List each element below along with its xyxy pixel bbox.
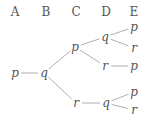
tree-node: p bbox=[130, 21, 138, 33]
tree-edge bbox=[49, 51, 71, 69]
tree-diagram: A B C D E p q p r q r q p r p p r bbox=[0, 0, 149, 115]
column-header-c: C bbox=[71, 6, 80, 18]
tree-node: p bbox=[130, 60, 138, 72]
tree-node: p bbox=[11, 67, 19, 79]
tree-edge bbox=[111, 29, 129, 35]
tree-node: r bbox=[102, 60, 108, 72]
tree-edge bbox=[81, 39, 100, 45]
column-header-e: E bbox=[130, 6, 139, 18]
tree-node: p bbox=[71, 41, 79, 53]
column-header-d: D bbox=[101, 6, 111, 18]
tree-node: q bbox=[102, 97, 110, 109]
tree-node: q bbox=[40, 67, 48, 79]
tree-edge bbox=[80, 50, 100, 63]
column-header-b: B bbox=[42, 6, 51, 18]
tree-edge bbox=[111, 39, 129, 46]
column-header-a: A bbox=[11, 6, 20, 18]
tree-edge bbox=[112, 105, 128, 109]
tree-node: r bbox=[73, 97, 79, 109]
tree-edge bbox=[48, 77, 71, 99]
tree-node: r bbox=[131, 42, 137, 54]
tree-node: p bbox=[130, 86, 138, 98]
tree-edge bbox=[112, 94, 129, 101]
tree-node: r bbox=[131, 104, 137, 115]
tree-node: q bbox=[101, 31, 109, 43]
